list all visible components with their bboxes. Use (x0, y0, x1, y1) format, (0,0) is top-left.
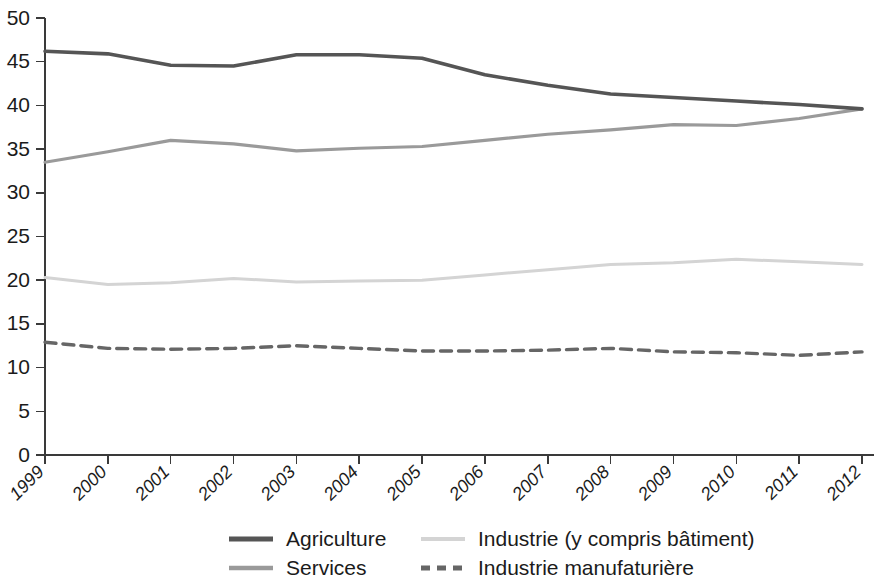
series-lines (45, 51, 862, 355)
x-tick-label: 2000 (68, 462, 111, 505)
legend-item-industrie: Industrie (y compris bâtiment) (420, 528, 755, 549)
legend-swatch-industrie (420, 532, 466, 546)
legend-row: Services Industrie manufaturière (228, 553, 868, 582)
legend-swatch-agriculture (228, 532, 274, 546)
x-tick-label: 2007 (507, 461, 551, 505)
legend-label-services: Services (286, 557, 367, 578)
y-tick-label: 0 (18, 443, 30, 466)
x-tick-label: 2002 (193, 462, 236, 505)
legend-label-industrie-manufaturiere: Industrie manufaturière (478, 557, 694, 578)
y-tick-label: 40 (7, 93, 30, 116)
x-tick-label: 2009 (633, 462, 676, 505)
x-tick-label: 2006 (445, 461, 489, 505)
y-axis: 05101520253035404550 (7, 6, 45, 466)
series-line-agriculture (45, 51, 862, 109)
legend-item-industrie-manufaturiere: Industrie manufaturière (420, 557, 694, 578)
series-line-services (45, 109, 862, 162)
x-tick-label: 2008 (570, 462, 613, 505)
chart-legend: Agriculture Industrie (y compris bâtimen… (228, 524, 868, 582)
x-tick-label: 2010 (696, 462, 739, 505)
y-tick-label: 25 (7, 224, 30, 247)
y-tick-label: 10 (7, 355, 30, 378)
y-tick-label: 15 (7, 311, 30, 334)
x-tick-label: 1999 (5, 462, 47, 504)
x-axis: 1999200020012002200320042005200620072008… (5, 455, 874, 505)
y-tick-label: 35 (7, 137, 30, 160)
y-tick-label: 5 (18, 399, 30, 422)
x-tick-label: 2003 (256, 462, 299, 505)
x-tick-label: 2011 (760, 462, 802, 504)
legend-item-services: Services (228, 557, 420, 578)
legend-label-industrie: Industrie (y compris bâtiment) (478, 528, 755, 549)
x-tick-label: 2005 (382, 461, 426, 505)
series-line-industrie-y-compris-b-timent (45, 259, 862, 284)
y-tick-label: 50 (7, 6, 30, 29)
legend-item-agriculture: Agriculture (228, 528, 420, 549)
y-tick-label: 30 (7, 180, 30, 203)
x-tick-label: 2001 (130, 462, 173, 505)
y-tick-label: 45 (7, 49, 30, 72)
legend-swatch-industrie-manufaturiere (420, 561, 466, 575)
x-tick-label: 2004 (319, 462, 362, 505)
chart-plot-area: 05101520253035404550 1999200020012002200… (0, 0, 877, 583)
y-tick-label: 20 (7, 268, 30, 291)
series-line-industrie-manufaturi-re (45, 342, 862, 355)
legend-row: Agriculture Industrie (y compris bâtimen… (228, 524, 868, 553)
legend-label-agriculture: Agriculture (286, 528, 386, 549)
legend-swatch-services (228, 561, 274, 575)
line-chart: 05101520253035404550 1999200020012002200… (0, 0, 877, 583)
x-tick-label: 2012 (822, 462, 865, 505)
